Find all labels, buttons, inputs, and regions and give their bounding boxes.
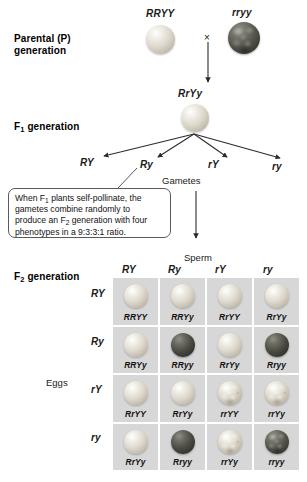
punnett-cell[interactable]: rrYy bbox=[207, 424, 252, 471]
f2-label-suffix: generation bbox=[25, 271, 80, 282]
wrinkled-green-seed-icon bbox=[265, 430, 289, 454]
punnett-cell[interactable]: rryy bbox=[254, 424, 299, 471]
punnett-cell-genotype: RRYy bbox=[113, 360, 158, 370]
round-yellow-seed-icon bbox=[124, 333, 148, 357]
round-green-seed-icon bbox=[171, 430, 195, 454]
callout-line1-a: When F bbox=[15, 193, 45, 203]
punnett-cell-genotype: RrYy bbox=[160, 409, 205, 419]
punnett-row-header-1: Ry bbox=[91, 336, 104, 347]
punnett-cell[interactable]: rrYY bbox=[207, 375, 252, 422]
info-callout: When F1 plants self-pollinate, the gamet… bbox=[8, 188, 171, 238]
punnett-cell[interactable]: rrYy bbox=[254, 375, 299, 422]
punnett-cell-seed bbox=[265, 284, 289, 308]
punnett-cell-seed bbox=[265, 430, 289, 454]
arrow-f1-to-gamete-3 bbox=[194, 134, 280, 158]
punnett-cell-genotype: RrYy bbox=[207, 360, 252, 370]
punnett-cell-seed bbox=[171, 284, 195, 308]
punnett-cell[interactable]: RRYy bbox=[113, 327, 158, 374]
parent-right-seed bbox=[228, 22, 260, 54]
punnett-cell[interactable]: Rryy bbox=[160, 424, 205, 471]
gamete-type-0: RY bbox=[80, 157, 94, 168]
punnett-column-header-3: ry bbox=[263, 264, 272, 275]
callout-line3-b: generation with four bbox=[69, 215, 147, 225]
punnett-cell-seed bbox=[171, 333, 195, 357]
parent-right-genotype: rryy bbox=[232, 7, 252, 18]
punnett-square-grid: RRYYRRYyRrYYRrYyRRYyRRyyRrYyRryyRrYYRrYy… bbox=[113, 278, 299, 470]
f1-seed bbox=[181, 104, 209, 132]
punnett-cell-seed bbox=[171, 430, 195, 454]
punnett-cell-seed bbox=[265, 381, 289, 405]
punnett-cell-genotype: RRYy bbox=[160, 312, 205, 322]
punnett-cell[interactable]: RRYy bbox=[160, 278, 205, 325]
punnett-cell-seed bbox=[218, 284, 242, 308]
f2-generation-label: F2 generation bbox=[14, 271, 80, 284]
parental-generation-label-line2: generation bbox=[14, 45, 71, 57]
sperm-axis-label: Sperm bbox=[184, 252, 212, 263]
gamete-type-3: ry bbox=[272, 161, 281, 172]
parental-generation-label-line1: Parental (P) bbox=[14, 33, 71, 45]
arrow-f1-to-gamete-0 bbox=[104, 134, 194, 156]
round-yellow-seed-icon bbox=[181, 104, 209, 132]
punnett-cell-genotype: rrYy bbox=[207, 457, 252, 467]
punnett-cell-genotype: rrYY bbox=[207, 409, 252, 419]
punnett-cell-seed bbox=[218, 381, 242, 405]
punnett-cell[interactable]: RrYy bbox=[254, 278, 299, 325]
punnett-column-header-0: RY bbox=[122, 264, 136, 275]
callout-pointer bbox=[118, 168, 137, 188]
punnett-cell[interactable]: RrYy bbox=[160, 375, 205, 422]
punnett-cell-seed bbox=[171, 381, 195, 405]
punnett-row-header-3: ry bbox=[91, 432, 100, 443]
eggs-axis-label: Eggs bbox=[46, 377, 68, 388]
callout-line3-sub: 2 bbox=[66, 219, 70, 226]
callout-line1-sub: 1 bbox=[45, 197, 49, 204]
punnett-cell-genotype: rrYy bbox=[254, 409, 299, 419]
wrinkled-yellow-seed-icon bbox=[218, 430, 242, 454]
punnett-cell[interactable]: RrYY bbox=[207, 278, 252, 325]
gamete-type-1: Ry bbox=[140, 159, 153, 170]
punnett-cell-seed bbox=[124, 284, 148, 308]
punnett-cell-genotype: RRyy bbox=[160, 360, 205, 370]
punnett-cell-genotype: RrYy bbox=[113, 457, 158, 467]
callout-line-2: gametes combine randomly to bbox=[15, 204, 164, 215]
punnett-cell-genotype: Rryy bbox=[160, 457, 205, 467]
punnett-cell-seed bbox=[124, 381, 148, 405]
wrinkled-yellow-seed-icon bbox=[218, 381, 242, 405]
round-yellow-seed-icon bbox=[171, 381, 195, 405]
round-yellow-seed-icon bbox=[124, 284, 148, 308]
f2-label-subscript: 2 bbox=[20, 275, 24, 284]
punnett-cell-seed bbox=[218, 430, 242, 454]
round-yellow-seed-icon bbox=[146, 25, 175, 54]
punnett-cell-seed bbox=[218, 333, 242, 357]
punnett-cell-genotype: rryy bbox=[254, 457, 299, 467]
f1-generation-label: F1 generation bbox=[14, 121, 80, 134]
parent-left-seed bbox=[146, 25, 175, 54]
arrow-f1-to-gamete-2 bbox=[194, 134, 227, 157]
punnett-cell[interactable]: RrYY bbox=[113, 375, 158, 422]
cross-symbol: × bbox=[204, 32, 210, 43]
gamete-type-2: rY bbox=[208, 159, 219, 170]
callout-line-3: produce an F2 generation with four bbox=[15, 215, 164, 226]
punnett-column-header-1: Ry bbox=[168, 264, 181, 275]
round-yellow-seed-icon bbox=[124, 430, 148, 454]
f1-label-suffix: generation bbox=[25, 121, 80, 132]
punnett-cell[interactable]: RRYY bbox=[113, 278, 158, 325]
punnett-cell[interactable]: RRyy bbox=[160, 327, 205, 374]
parent-left-genotype: RRYY bbox=[146, 8, 174, 19]
wrinkled-yellow-seed-icon bbox=[265, 381, 289, 405]
wrinkled-green-seed-icon bbox=[228, 22, 260, 54]
parental-generation-label: Parental (P) generation bbox=[14, 33, 71, 57]
punnett-cell-genotype: RrYY bbox=[207, 312, 252, 322]
punnett-cell-seed bbox=[265, 333, 289, 357]
round-green-seed-icon bbox=[171, 333, 195, 357]
punnett-cell[interactable]: Rryy bbox=[254, 327, 299, 374]
round-green-seed-icon bbox=[265, 333, 289, 357]
gametes-label: Gametes bbox=[162, 175, 201, 186]
punnett-cell-genotype: RRYY bbox=[113, 312, 158, 322]
f1-label-subscript: 1 bbox=[20, 125, 24, 134]
f1-genotype: RrYy bbox=[178, 88, 202, 99]
punnett-cell-seed bbox=[124, 430, 148, 454]
callout-line3-a: produce an F bbox=[15, 215, 66, 225]
punnett-cell[interactable]: RrYy bbox=[207, 327, 252, 374]
punnett-column-header-2: rY bbox=[215, 264, 226, 275]
punnett-cell[interactable]: RrYy bbox=[113, 424, 158, 471]
